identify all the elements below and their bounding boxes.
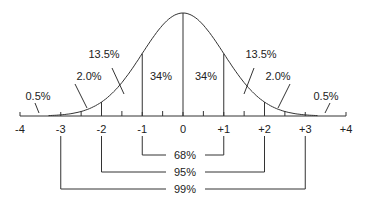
leader-line	[325, 103, 330, 113]
tick-label: -2	[97, 123, 107, 135]
band-label: 2.0%	[76, 70, 101, 82]
sd-lines	[102, 13, 265, 116]
tick-label: +1	[217, 123, 230, 135]
bracket-label: 68%	[174, 149, 196, 161]
leader-line	[75, 84, 87, 108]
bracket-label: 95%	[174, 166, 196, 178]
bracket-left	[142, 136, 166, 155]
tick-label: -4	[15, 123, 25, 135]
band-label: 13.5%	[88, 48, 119, 60]
tick-label: -3	[56, 123, 66, 135]
leader-line	[35, 103, 39, 113]
band-label: 0.5%	[25, 90, 50, 102]
tick-label: +3	[299, 123, 312, 135]
normal-distribution-chart: -4-3-2-10+1+2+3+4 0.5%2.0%13.5%34%34%13.…	[0, 0, 371, 201]
bracket-group: 68%95%99%	[61, 136, 306, 195]
bracket-left	[102, 136, 167, 172]
bracket-left	[61, 136, 166, 189]
band-label: 13.5%	[245, 48, 276, 60]
band-label: 0.5%	[313, 90, 338, 102]
leader-line	[278, 84, 290, 108]
tick-label: +2	[258, 123, 271, 135]
tick-label: +4	[340, 123, 353, 135]
band-label: 34%	[195, 70, 217, 82]
tick-label: -1	[137, 123, 147, 135]
leader-line	[112, 68, 124, 94]
tick-label: 0	[180, 123, 186, 135]
bracket: 68%	[142, 136, 224, 161]
bracket-right	[205, 136, 305, 189]
band-label: 34%	[150, 70, 172, 82]
leader-line	[244, 68, 254, 94]
band-label: 2.0%	[265, 70, 290, 82]
bracket-right	[205, 136, 224, 155]
bracket-label: 99%	[174, 183, 196, 195]
bracket-right	[205, 136, 265, 172]
band-labels: 0.5%2.0%13.5%34%34%13.5%2.0%0.5%	[25, 48, 338, 113]
